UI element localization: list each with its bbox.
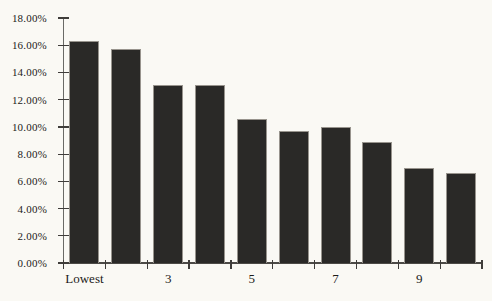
y-axis-tick — [58, 17, 69, 18]
y-axis-tick — [58, 208, 69, 209]
x-axis-tick-label: Lowest — [54, 271, 114, 287]
y-axis-tick — [58, 72, 69, 73]
y-axis-tick-label: 10.00% — [0, 120, 47, 134]
bar — [362, 142, 392, 263]
y-axis-tick-label: 4.00% — [0, 202, 47, 216]
bar — [69, 41, 99, 263]
x-axis-tick — [272, 260, 273, 270]
y-axis-line — [63, 17, 65, 264]
y-axis-tick — [58, 45, 69, 46]
bar — [404, 168, 434, 263]
y-axis-tick-label: 6.00% — [0, 174, 47, 188]
bar — [321, 127, 351, 263]
y-axis-tick — [58, 126, 69, 127]
y-axis-tick-label: 8.00% — [0, 147, 47, 161]
y-axis-tick — [58, 99, 69, 100]
bar — [237, 119, 267, 263]
y-axis-tick-label: 2.00% — [0, 229, 47, 243]
x-axis-tick — [105, 260, 106, 270]
x-axis-tick — [356, 260, 357, 270]
bar — [446, 173, 476, 263]
x-axis-tick-label: 3 — [138, 271, 198, 287]
x-axis-tick — [481, 260, 482, 270]
x-axis-tick — [147, 260, 148, 270]
x-axis-tick-label: 9 — [389, 271, 449, 287]
bar — [153, 85, 183, 263]
bar — [195, 85, 225, 263]
plot-area: 0.00%2.00%4.00%6.00%8.00%10.00%12.00%14.… — [0, 0, 492, 301]
x-axis-tick-label: 5 — [222, 271, 282, 287]
x-axis-tick — [398, 260, 399, 270]
y-axis-tick — [58, 235, 69, 236]
x-axis-tick — [188, 260, 189, 270]
x-axis-tick-label: 7 — [306, 271, 366, 287]
decile-returns-bar-chart: 0.00%2.00%4.00%6.00%8.00%10.00%12.00%14.… — [0, 0, 492, 301]
y-axis-tick-label: 18.00% — [0, 11, 47, 25]
bar — [279, 131, 309, 263]
y-axis-tick-label: 14.00% — [0, 65, 47, 79]
bar — [111, 49, 141, 263]
x-axis-tick — [440, 260, 441, 270]
x-axis-tick — [230, 260, 231, 270]
y-axis-tick-label: 16.00% — [0, 38, 47, 52]
y-axis-tick-label: 12.00% — [0, 93, 47, 107]
y-axis-tick — [58, 181, 69, 182]
y-axis-tick-label: 0.00% — [0, 256, 47, 270]
x-axis-tick — [314, 260, 315, 270]
x-axis-tick — [63, 260, 64, 270]
y-axis-tick — [58, 154, 69, 155]
